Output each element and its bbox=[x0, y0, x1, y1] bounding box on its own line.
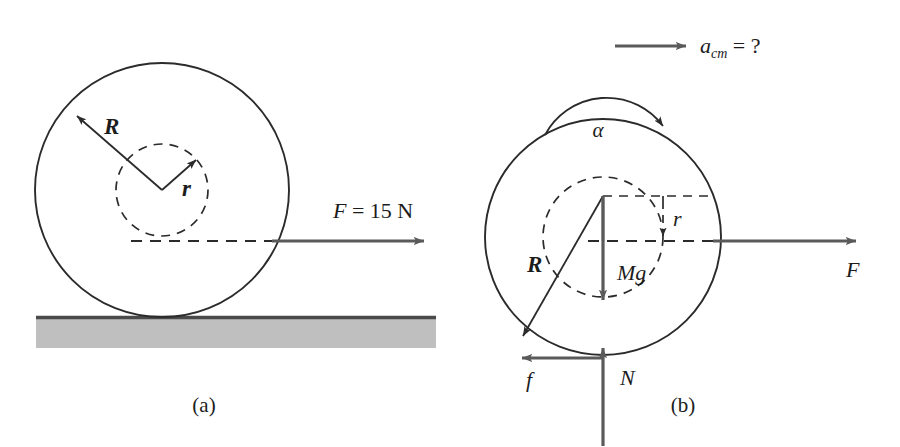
angular-acceleration-label: α bbox=[592, 118, 604, 142]
ground-hatch-band bbox=[36, 319, 436, 348]
physics-figure: R r F = 15 N (a) acm = ? α bbox=[0, 0, 900, 447]
radius-r-label-a: r bbox=[182, 176, 192, 201]
figure-background bbox=[0, 0, 900, 447]
panel-a-caption: (a) bbox=[192, 393, 215, 417]
figure-canvas: R r F = 15 N (a) acm = ? α bbox=[0, 0, 900, 447]
weight-label: Mg bbox=[616, 260, 646, 285]
acm-label: acm = ? bbox=[700, 33, 761, 61]
radius-R-label-a: R bbox=[103, 114, 119, 139]
radius-R-label-b: R bbox=[526, 252, 542, 277]
applied-force-label-b: F bbox=[845, 257, 860, 282]
normal-force-label: N bbox=[619, 365, 636, 390]
radius-r-label-b: r bbox=[673, 206, 682, 231]
applied-force-label-a: F = 15 N bbox=[332, 198, 413, 223]
panel-b-caption: (b) bbox=[671, 393, 696, 417]
ground-surface bbox=[36, 318, 436, 349]
